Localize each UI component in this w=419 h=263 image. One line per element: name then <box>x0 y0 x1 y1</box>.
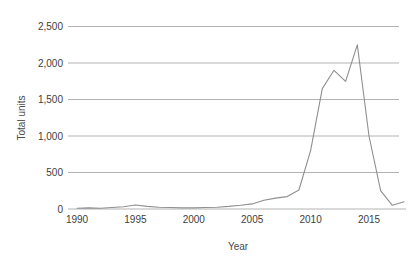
y-axis-title: Total units <box>16 95 27 140</box>
chart: 05001,0001,5002,0002,5001990199520002005… <box>0 0 419 263</box>
gridlines <box>68 27 406 210</box>
x-axis-labels: 199019952000200520102015 <box>66 214 381 225</box>
y-tick-label: 0 <box>57 204 63 215</box>
x-tick-label: 1995 <box>124 214 147 225</box>
y-axis-labels: 05001,0001,5002,0002,500 <box>38 21 63 215</box>
x-tick-label: 2000 <box>183 214 206 225</box>
data-line-total-units <box>77 45 404 209</box>
line-chart-canvas: 05001,0001,5002,0002,5001990199520002005… <box>0 0 419 263</box>
x-tick-label: 2010 <box>299 214 322 225</box>
x-tick-label: 2015 <box>358 214 381 225</box>
y-tick-label: 1,000 <box>38 131 63 142</box>
x-tick-label: 2005 <box>241 214 264 225</box>
y-tick-label: 1,500 <box>38 94 63 105</box>
y-tick-label: 2,500 <box>38 21 63 32</box>
x-tick-label: 1990 <box>66 214 89 225</box>
x-axis-title: Year <box>228 241 248 252</box>
y-tick-label: 500 <box>46 167 63 178</box>
y-tick-label: 2,000 <box>38 58 63 69</box>
